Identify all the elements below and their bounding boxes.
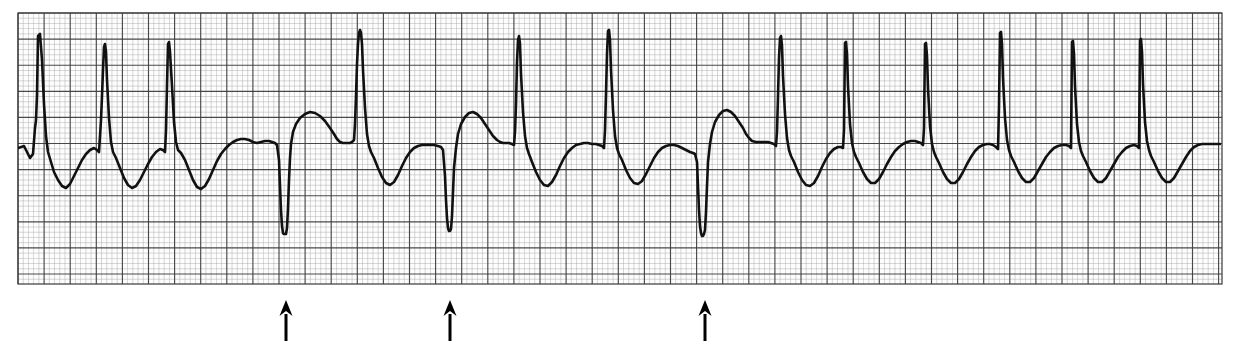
arrow-up-icon xyxy=(444,300,457,341)
arrow-up-icon xyxy=(280,300,293,341)
arrow-up-icon xyxy=(699,300,712,341)
ecg-rhythm-strip xyxy=(0,0,1234,351)
premature-beat-markers xyxy=(280,300,712,341)
ecg-chart xyxy=(0,0,1234,351)
